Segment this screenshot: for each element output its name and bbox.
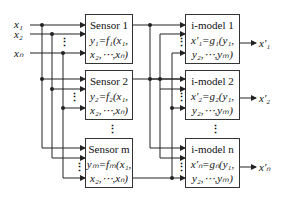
model-ellipsis: ⋮	[210, 123, 221, 135]
output-x2-label: x′₂	[259, 92, 270, 104]
sensor-m-box: Sensor m yₘ=fₘ(x₁, x₂,⋯,xₙ)	[85, 138, 133, 188]
sensorm-input-ellipsis: ⋮	[74, 161, 85, 173]
input-x2-label: x₂	[14, 28, 23, 40]
sensor-2-title: Sensor 2	[86, 75, 132, 87]
i-model-2-box: i-model 2 x′₂=g₂(y₁, y₂,⋯,yₘ)	[185, 70, 240, 120]
sensor-m-eq1: yₘ=fₘ(x₁,	[86, 158, 132, 170]
sensor-1-eq1: y₁=f₁(x₁,	[86, 34, 132, 46]
i-model-n-title: i-model n	[186, 143, 239, 155]
sensor-1-box: Sensor 1 y₁=f₁(x₁, x₂,⋯,xₙ)	[85, 14, 133, 64]
i-model-2-eq2: y₂,⋯,yₘ)	[186, 104, 239, 116]
sensor-2-eq1: y₂=f₂(x₁,	[86, 90, 132, 102]
i-model-1-box: i-model 1 x′₁=g₁(y₁, y₂,⋯,yₘ)	[185, 14, 240, 64]
i-model-2-eq1: x′₂=g₂(y₁,	[186, 90, 239, 102]
input-ellipsis: ⋮	[59, 36, 70, 48]
sensor-2-box: Sensor 2 y₂=f₂(x₁, x₂,⋯,xₙ)	[85, 70, 133, 120]
sensor-1-title: Sensor 1	[86, 19, 132, 31]
input-xn-label: xₙ	[14, 47, 23, 59]
sensor-ellipsis: ⋮	[107, 123, 118, 135]
sensor-m-title: Sensor m	[86, 143, 132, 155]
i-model-1-title: i-model 1	[186, 19, 239, 31]
sensor-2-eq2: x₂,⋯,xₙ)	[86, 104, 132, 116]
output-xn-label: x′ₙ	[259, 161, 270, 173]
i-model-n-box: i-model n x′ₙ=gₙ(y₁, y₂,⋯,yₘ)	[185, 138, 240, 188]
i-model-n-eq2: y₂,⋯,yₘ)	[186, 172, 239, 184]
sensor-1-eq2: x₂,⋯,xₙ)	[86, 48, 132, 60]
i-model-2-title: i-model 2	[186, 75, 239, 87]
i-model-1-eq2: y₂,⋯,yₘ)	[186, 48, 239, 60]
sensor-m-eq2: x₂,⋯,xₙ)	[86, 172, 132, 184]
sensor2-input-ellipsis: ⋮	[69, 91, 80, 103]
output-x1-label: x′₁	[259, 37, 270, 49]
i-model-1-eq1: x′₁=g₁(y₁,	[186, 34, 239, 46]
i-model-n-eq1: x′ₙ=gₙ(y₁,	[186, 158, 239, 170]
